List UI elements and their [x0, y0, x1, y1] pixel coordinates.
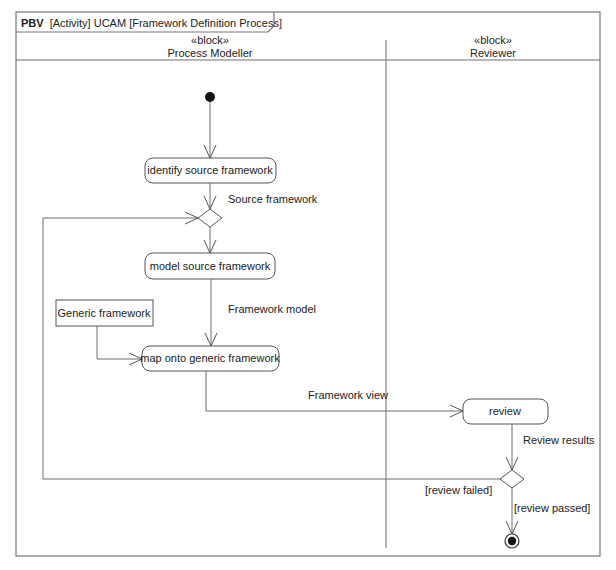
frame-title-text: [Activity] UCAM [Framework Definition Pr…	[50, 17, 282, 29]
frame-kind: PBV	[21, 17, 44, 29]
final-node	[508, 537, 516, 545]
flow-label-framework-model: Framework model	[228, 303, 316, 315]
activity-diagram: PBV [Activity] UCAM [Framework Definitio…	[0, 0, 616, 570]
guard-review-passed: [review passed]	[514, 502, 590, 514]
initial-node	[205, 92, 215, 102]
action-identify-label: identify source framework	[147, 164, 273, 176]
frame-title: PBV [Activity] UCAM [Framework Definitio…	[21, 17, 282, 29]
flow-label-review-results: Review results	[523, 434, 595, 446]
lane-process-modeller-name: Process Modeller	[168, 47, 253, 59]
action-model-label: model source framework	[150, 260, 271, 272]
action-map-label: map onto generic framework	[140, 352, 280, 364]
lane-reviewer-name: Reviewer	[470, 47, 516, 59]
guard-review-failed: [review failed]	[425, 484, 492, 496]
flow-generic-to-map	[97, 326, 142, 359]
merge-node	[198, 209, 222, 227]
object-generic-framework-label: Generic framework	[58, 307, 151, 319]
lane-reviewer-stereotype: «block»	[474, 34, 512, 46]
lane-process-modeller-stereotype: «block»	[191, 34, 229, 46]
action-review-label: review	[489, 405, 521, 417]
flow-label-source-framework: Source framework	[228, 193, 318, 205]
decision-node	[500, 470, 524, 488]
flow-label-framework-view: Framework view	[308, 389, 388, 401]
